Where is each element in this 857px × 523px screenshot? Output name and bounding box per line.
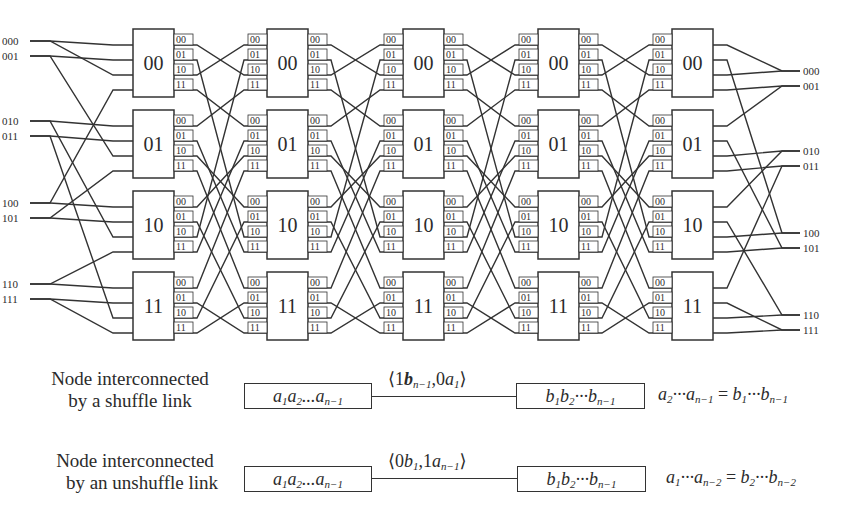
- input-port-label: 10: [655, 64, 665, 75]
- output-terminal-label: 101: [803, 242, 820, 254]
- output-port-label: 00: [581, 34, 591, 45]
- switch-node-label: 11: [278, 295, 297, 317]
- shuffle-description: Node interconnected by a shuffle link: [30, 368, 230, 412]
- output-port-label: 10: [581, 145, 591, 156]
- shuffle-equation: a2···an−1 = b1···bn−1: [658, 384, 788, 405]
- output-port-label: 01: [176, 49, 186, 60]
- shuffle-left-node: a1a2...an−1: [244, 383, 372, 409]
- output-port-label: 11: [176, 160, 186, 171]
- switch-node: 010001101100011011: [519, 110, 598, 178]
- output-port-label: 11: [446, 241, 456, 252]
- input-port-label: 11: [655, 79, 665, 90]
- input-port-label: 00: [521, 196, 531, 207]
- switch-node-label: 10: [683, 214, 703, 236]
- input-port-label: 10: [655, 307, 665, 318]
- output-port-label: 00: [176, 34, 186, 45]
- input-port-label: 10: [386, 145, 396, 156]
- output-port-label: 01: [581, 130, 591, 141]
- output-port-label: 10: [446, 145, 456, 156]
- input-link: [30, 136, 133, 141]
- output-port-label: 00: [176, 115, 186, 126]
- switch-node-label: 01: [549, 133, 569, 155]
- output-link: [713, 330, 800, 333]
- input-port-label: 10: [521, 145, 531, 156]
- switch-node: 1000011011: [133, 191, 193, 259]
- switch-node-label: 00: [414, 52, 434, 74]
- unshuffle-description-line1: Node interconnected: [30, 450, 240, 472]
- output-port-label: 00: [176, 196, 186, 207]
- input-terminal-label: 000: [2, 35, 19, 47]
- input-port-label: 11: [250, 241, 260, 252]
- output-port-label: 01: [581, 292, 591, 303]
- input-port-label: 01: [250, 211, 260, 222]
- input-port-label: 01: [655, 130, 665, 141]
- input-port-label: 10: [250, 64, 260, 75]
- input-terminal-label: 110: [2, 278, 19, 290]
- input-port-label: 01: [386, 211, 396, 222]
- unshuffle-equation: a1···an−2 = b2···bn−2: [666, 467, 796, 488]
- output-port-label: 01: [310, 292, 320, 303]
- output-link: [713, 166, 800, 288]
- switch-node: 0000011011: [653, 29, 713, 97]
- switch-node-label: 01: [414, 133, 434, 155]
- output-port-label: 10: [176, 64, 186, 75]
- legend-shuffle: Node interconnected by a shuffle link a1…: [0, 368, 857, 428]
- output-port-label: 10: [310, 307, 320, 318]
- output-port-label: 11: [446, 79, 456, 90]
- output-port-label: 10: [310, 226, 320, 237]
- output-port-label: 11: [176, 322, 186, 333]
- input-port-label: 10: [250, 226, 260, 237]
- input-link: [30, 252, 133, 284]
- output-port-label: 11: [446, 160, 456, 171]
- unshuffle-description-line2: by an unshuffle link: [44, 472, 240, 494]
- switch-node: 000001101100011011: [248, 29, 327, 97]
- output-terminal-label: 110: [803, 309, 820, 321]
- output-link: [713, 248, 800, 252]
- input-terminal-label: 010: [2, 115, 19, 127]
- input-link: [30, 136, 133, 318]
- switch-node: 110001101100011011: [519, 272, 598, 340]
- shuffle-description-line1: Node interconnected: [30, 368, 230, 390]
- input-port-label: 01: [386, 49, 396, 60]
- input-port-label: 01: [655, 211, 665, 222]
- output-port-label: 01: [310, 130, 320, 141]
- output-port-label: 01: [446, 211, 456, 222]
- unshuffle-description: Node interconnected by an unshuffle link: [30, 450, 240, 494]
- switch-node-label: 11: [549, 295, 568, 317]
- input-port-label: 11: [250, 322, 260, 333]
- switch-node-label: 00: [683, 52, 703, 74]
- input-port-label: 01: [521, 49, 531, 60]
- switch-node-label: 10: [414, 214, 434, 236]
- output-port-label: 01: [176, 130, 186, 141]
- output-port-label: 00: [581, 196, 591, 207]
- output-port-label: 00: [446, 196, 456, 207]
- input-terminal-label: 001: [2, 50, 19, 62]
- input-port-label: 11: [386, 241, 396, 252]
- input-port-label: 11: [521, 160, 531, 171]
- input-port-label: 00: [250, 34, 260, 45]
- output-terminal-label: 011: [803, 160, 819, 172]
- input-port-label: 11: [386, 160, 396, 171]
- output-port-label: 10: [446, 226, 456, 237]
- output-port-label: 11: [310, 160, 320, 171]
- switch-node-label: 10: [278, 214, 298, 236]
- output-link: [713, 45, 800, 71]
- input-port-label: 10: [386, 226, 396, 237]
- output-port-label: 01: [581, 211, 591, 222]
- output-port-label: 11: [310, 241, 320, 252]
- switch-node-label: 10: [144, 214, 164, 236]
- input-port-label: 01: [521, 292, 531, 303]
- input-port-label: 00: [521, 34, 531, 45]
- output-port-label: 10: [176, 145, 186, 156]
- input-port-label: 00: [521, 115, 531, 126]
- switch-node: 000001101100011011: [384, 29, 463, 97]
- output-port-label: 11: [310, 322, 320, 333]
- switch-node: 1100011011: [133, 272, 193, 340]
- output-port-label: 10: [446, 307, 456, 318]
- output-port-label: 00: [310, 34, 320, 45]
- input-port-label: 11: [386, 79, 396, 90]
- output-port-label: 01: [310, 211, 320, 222]
- output-terminal-label: 100: [803, 227, 820, 239]
- switch-node-label: 11: [144, 295, 163, 317]
- output-port-label: 00: [581, 277, 591, 288]
